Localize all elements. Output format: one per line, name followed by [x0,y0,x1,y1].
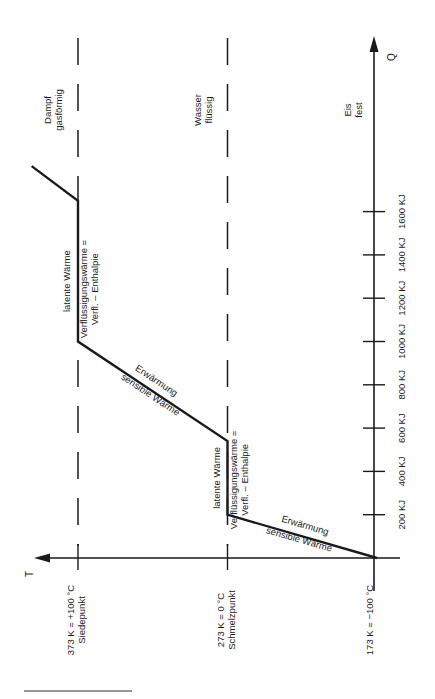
q-tick-label: 200 KJ [396,500,407,530]
q-tick-label: 1400 KJ [396,237,407,272]
t-axis-label: T [24,571,35,577]
latent-heat-boiling-label: latente Wärme [61,250,72,312]
heating-curve [32,166,377,558]
q-tick-label: 1200 KJ [396,281,407,316]
heating-curve-chart: QT200 KJ400 KJ600 KJ800 KJ1000 KJ1200 KJ… [0,0,435,699]
latent-heat-melting-label: latente Wärme [211,447,222,509]
q-tick-label: 400 KJ [396,456,407,486]
q-tick-label: 800 KJ [396,370,407,400]
chart-labels: QT200 KJ400 KJ600 KJ800 KJ1000 KJ1200 KJ… [24,53,407,655]
t-tick-sublabel: Schmelzpunkt [226,590,237,650]
phase-sublabel: flüssig [203,97,214,124]
phase-sublabel: gasförmig [53,89,64,131]
t-tick-label: 373 K = +100 °C [65,585,76,655]
heating-curve-line [32,166,377,558]
q-tick-label: 1000 KJ [396,324,407,359]
boiling-enthalpy-label: Verflüssigungswärme = [78,239,89,338]
q-axis-label: Q [386,53,397,61]
t-tick-label: 173 K = −100 °C [364,585,375,655]
q-tick-label: 600 KJ [396,413,407,443]
phase-label: Dampf [42,96,53,124]
q-axis-arrow [370,36,379,52]
phase-sublabel: fest [353,102,364,118]
t-axis-arrow [34,554,50,563]
phase-label: Eis [342,103,353,116]
t-tick-sublabel: Siedepunkt [76,596,87,644]
t-tick-label: 273 K = 0 °C [215,593,226,647]
phase-label: Wasser [192,94,203,126]
boiling-enthalpy-sublabel: Verfl. – Enthalpie [89,253,100,325]
melting-enthalpy-label: Verflüssigungswärme = [228,430,239,529]
melting-enthalpy-sublabel: Verfl. – Enthalpie [239,444,250,516]
q-tick-label: 1600 KJ [396,194,407,229]
